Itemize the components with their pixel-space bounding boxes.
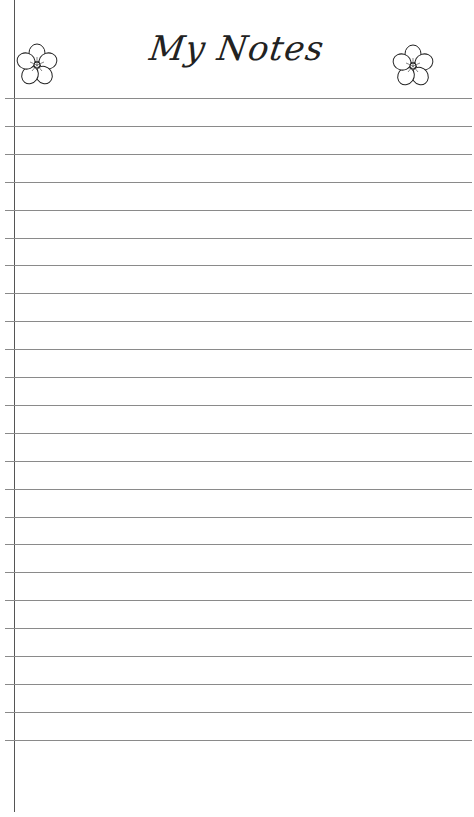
ruled-line	[5, 628, 472, 629]
ruled-line	[5, 461, 472, 462]
ruled-line	[5, 740, 472, 741]
ruled-line	[5, 712, 472, 713]
ruled-line	[5, 238, 472, 239]
ruled-line	[5, 684, 472, 685]
ruled-line	[5, 544, 472, 545]
ruled-line	[5, 656, 472, 657]
ruled-line	[5, 349, 472, 350]
ruled-line	[5, 489, 472, 490]
ruled-line	[5, 321, 472, 322]
ruled-line	[5, 405, 472, 406]
ruled-line	[5, 98, 472, 99]
flower-icon	[390, 43, 436, 89]
ruled-line	[5, 517, 472, 518]
ruled-line	[5, 210, 472, 211]
ruled-line	[5, 265, 472, 266]
ruled-line	[5, 182, 472, 183]
ruled-line	[5, 572, 472, 573]
ruled-line	[5, 126, 472, 127]
margin-line	[14, 0, 15, 812]
ruled-line	[5, 600, 472, 601]
ruled-line	[5, 154, 472, 155]
ruled-line	[5, 293, 472, 294]
ruled-line	[5, 433, 472, 434]
ruled-line	[5, 377, 472, 378]
notes-page: My Notes	[0, 0, 474, 817]
